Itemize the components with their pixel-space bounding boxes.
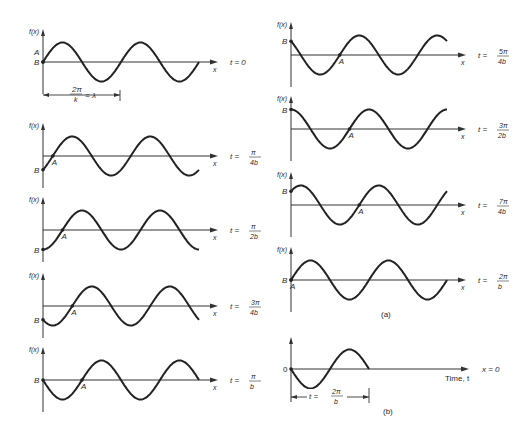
point-B-marker (41, 168, 45, 172)
x-axis-label: x (460, 209, 465, 216)
wave-panel-t0: f(x)xBAt = 0 (29, 28, 246, 94)
wave-panel-t_3pi4: f(x)xBAt =3π4b (29, 272, 261, 338)
x-axis-arrow-icon (458, 53, 466, 58)
x-axis-arrow-icon (458, 278, 466, 283)
x-axis-label: x (212, 234, 217, 241)
point-B-label: B (34, 376, 40, 385)
time-label-numerator: π (251, 149, 256, 156)
time-label-denominator: 2b (249, 233, 258, 240)
point-B-label: B (282, 106, 288, 115)
x-axis-label: x (460, 133, 465, 140)
wave-panel-t_5pi4: f(x)xBAt =5π4b (277, 21, 509, 87)
y-axis-label: f(x) (29, 346, 39, 354)
time-label-denominator: b (498, 283, 502, 290)
time-label-denominator: 4b (250, 159, 258, 166)
time-label-prefix: t = (230, 152, 239, 161)
point-A-label: A (357, 207, 363, 216)
panels-group: f(x)xBAt = 0f(x)xBAt =π4bf(x)xBAt =π2bf(… (29, 21, 509, 412)
time-label-prefix: t = (230, 302, 239, 311)
point-A-label: A (289, 282, 295, 291)
wave-panel-t_7pi4: f(x)xBAt =7π4b (277, 171, 509, 237)
x-axis-label: x (460, 59, 465, 66)
wavelength-rhs: = λ (85, 91, 96, 100)
point-A-label: A (338, 57, 344, 66)
point-A-label: A (33, 48, 39, 57)
y-axis-arrow-icon (289, 22, 293, 29)
point-B-label: B (34, 58, 40, 67)
part-a-label: (a) (381, 310, 391, 319)
part-b-label: (b) (383, 407, 393, 416)
time-label: t = 0 (230, 58, 246, 67)
panel-b-time-plot: 0 Time, t x = 0 t = 2π b (b) (283, 337, 500, 416)
y-axis-arrow-icon (41, 29, 45, 36)
wavelength-numerator: 2π (71, 85, 82, 94)
point-B-marker (41, 378, 45, 382)
point-B-label: B (34, 316, 40, 325)
point-A-label: A (61, 232, 67, 241)
time-label-numerator: π (251, 373, 256, 380)
y-axis-label: f(x) (277, 171, 287, 179)
x-axis-arrow-icon (458, 127, 466, 132)
time-label-denominator: b (250, 383, 254, 390)
point-A-label: A (80, 382, 86, 391)
point-B-marker (41, 248, 45, 252)
time-label-prefix: t = (478, 201, 487, 210)
time-label-prefix: t = (230, 226, 239, 235)
y-axis-arrow-icon (289, 337, 293, 344)
time-label-denominator: 4b (498, 58, 506, 65)
y-axis-arrow-icon (289, 247, 293, 254)
point-A-label: A (348, 131, 354, 140)
x-axis-label: x (212, 310, 217, 317)
period-numerator: 2π (331, 388, 341, 395)
y-axis-label: f(x) (29, 272, 39, 280)
time-label-numerator: π (251, 223, 256, 230)
origin-label: 0 (283, 365, 288, 374)
time-label-prefix: t = (478, 125, 487, 134)
point-A-marker (41, 60, 45, 64)
x-axis-arrow-icon (210, 304, 218, 309)
y-axis-arrow-icon (41, 123, 45, 130)
wave-panel-t_pi: f(x)xBAt =πb (29, 346, 261, 412)
x-axis-label: x (460, 284, 465, 291)
y-axis-arrow-icon (41, 347, 45, 354)
y-axis-label: f(x) (277, 95, 287, 103)
wave-panel-t_2pi: f(x)xBAt =2πb (277, 246, 509, 312)
time-axis-arrow-icon (461, 367, 469, 372)
point-B-label: B (282, 37, 288, 46)
y-axis-arrow-icon (41, 197, 45, 204)
point-B-marker (289, 39, 293, 43)
x-axis-arrow-icon (210, 60, 218, 65)
point-B-marker (41, 318, 45, 322)
time-axis-label: Time, t (445, 374, 470, 383)
y-axis-arrow-icon (41, 273, 45, 280)
y-axis-label: f(x) (277, 21, 287, 29)
traveling-wave-figure: f(x)xBAt = 0f(x)xBAt =π4bf(x)xBAt =π2bf(… (0, 0, 528, 431)
point-B-label: B (34, 166, 40, 175)
point-B-label: B (282, 187, 288, 196)
x-axis-arrow-icon (210, 154, 218, 159)
time-label-numerator: 5π (499, 48, 508, 55)
time-label-denominator: 4b (498, 208, 506, 215)
time-label-numerator: 3π (499, 122, 508, 129)
period-lhs: t = (309, 392, 318, 401)
y-axis-label: f(x) (277, 246, 287, 254)
y-axis-label: f(x) (29, 122, 39, 130)
time-label-numerator: 7π (499, 198, 508, 205)
y-axis-label: f(x) (29, 196, 39, 204)
x-axis-arrow-icon (210, 228, 218, 233)
time-label-numerator: 2π (498, 273, 508, 280)
y-axis-arrow-icon (289, 172, 293, 179)
wavelength-denominator: k (74, 96, 78, 103)
x-axis-label: x (212, 160, 217, 167)
point-B-label: B (34, 246, 40, 255)
y-axis-label: f(x) (29, 28, 39, 36)
period-denominator: b (334, 398, 338, 405)
x-axis-label: x (212, 66, 217, 73)
time-label-denominator: 2b (497, 132, 506, 139)
point-B-marker (289, 189, 293, 193)
x-axis-label: x (212, 384, 217, 391)
x-axis-arrow-icon (210, 378, 218, 383)
wave-panel-t_pi2: f(x)xBAt =π2b (29, 196, 261, 262)
point-B-label: B (282, 276, 288, 285)
time-label-prefix: t = (478, 276, 487, 285)
